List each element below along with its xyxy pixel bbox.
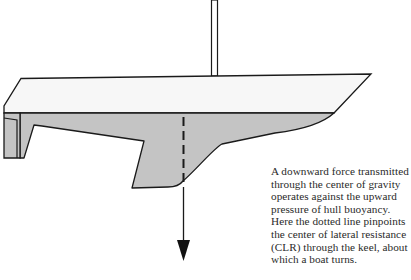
caption-line: pressure of hull buoyancy. <box>271 203 411 216</box>
caption-line: the center of lateral resistance <box>271 228 411 241</box>
caption-line: (CLR) through the keel, about <box>271 241 411 254</box>
caption: A downward force transmitted through the… <box>271 165 411 266</box>
downward-force-arrow <box>177 187 190 261</box>
caption-line: through the center of gravity <box>271 178 411 191</box>
arrowhead-icon <box>177 240 190 261</box>
caption-line: which a boat turns. <box>271 253 411 266</box>
caption-line: operates against the upward <box>271 190 411 203</box>
caption-line: A downward force transmitted <box>271 165 411 178</box>
hull-topside <box>4 74 371 113</box>
caption-line: Here the dotted line pinpoints <box>271 215 411 228</box>
mast <box>212 0 218 76</box>
